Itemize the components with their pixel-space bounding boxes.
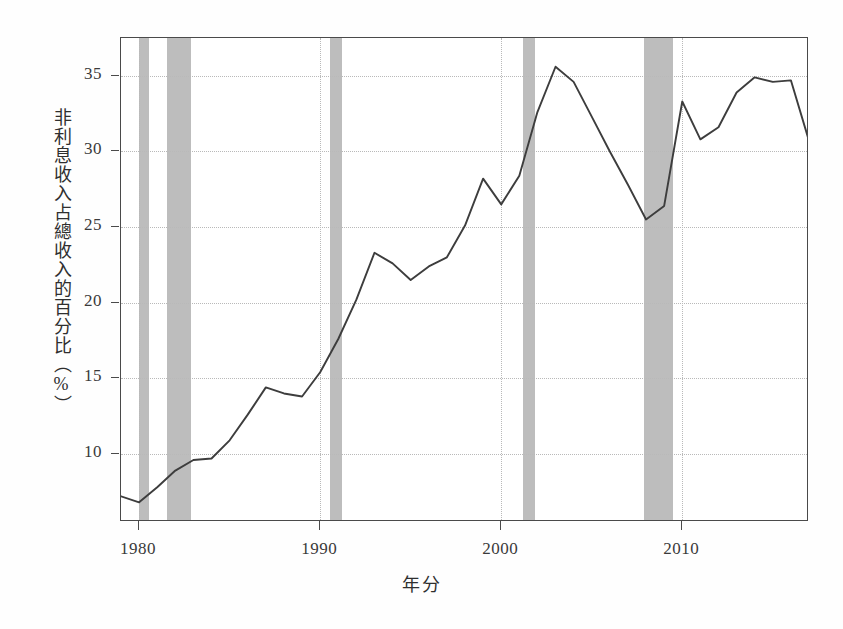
x-tick-mark <box>500 521 501 530</box>
y-tick-label: 25 <box>62 215 102 235</box>
x-tick-label: 2000 <box>465 539 535 559</box>
y-tick-label: 20 <box>62 291 102 311</box>
x-axis-title: 年分 <box>0 570 843 596</box>
y-tick-label: 30 <box>62 139 102 159</box>
y-tick-mark <box>111 453 119 454</box>
y-tick-mark <box>111 226 119 227</box>
x-tick-label: 2010 <box>646 539 716 559</box>
data-series-layer <box>121 38 808 521</box>
y-tick-mark <box>111 75 119 76</box>
x-tick-label: 1990 <box>284 539 354 559</box>
plot-area <box>120 37 808 521</box>
x-tick-mark <box>681 521 682 530</box>
y-tick-mark <box>111 150 119 151</box>
x-tick-mark <box>138 521 139 530</box>
x-tick-label: 1980 <box>103 539 173 559</box>
series-line-noninterest-income <box>121 67 808 503</box>
y-tick-label: 10 <box>62 442 102 462</box>
y-tick-label: 15 <box>62 366 102 386</box>
y-tick-mark <box>111 377 119 378</box>
y-tick-label: 35 <box>62 64 102 84</box>
y-tick-mark <box>111 302 119 303</box>
chart-figure: 非利息收入占總收入的百分比（%） 101520253035 1980199020… <box>0 0 843 629</box>
x-tick-mark <box>319 521 320 530</box>
